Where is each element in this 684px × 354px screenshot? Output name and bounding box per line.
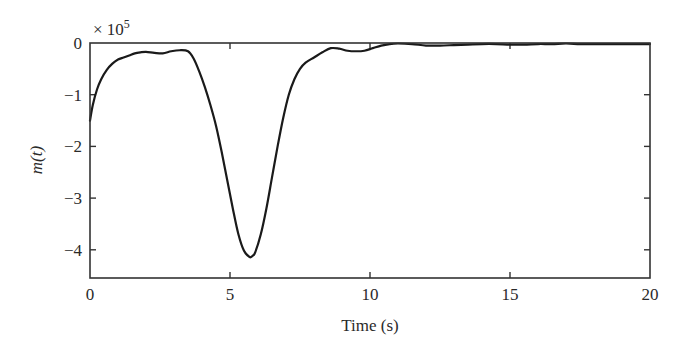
x-tick-label: 5 xyxy=(226,285,235,304)
y-multiplier-label: × 105 xyxy=(93,17,130,39)
x-tick-label: 20 xyxy=(642,285,659,304)
y-tick-label: −1 xyxy=(64,86,82,105)
y-tick-label: −2 xyxy=(64,137,82,156)
axis-ticks xyxy=(90,43,650,278)
x-axis-label: Time (s) xyxy=(341,316,398,335)
y-tick-label: −4 xyxy=(64,241,83,260)
x-tick-label: 0 xyxy=(86,285,95,304)
y-tick-label: −3 xyxy=(64,189,82,208)
x-tick-label: 10 xyxy=(362,285,379,304)
data-line-m-t xyxy=(90,44,650,258)
tick-labels: 051015200−1−2−3−4 xyxy=(64,34,659,304)
x-tick-label: 15 xyxy=(502,285,519,304)
plot-frame xyxy=(90,43,650,278)
line-chart: 051015200−1−2−3−4 × 105 Time (s) m(t) xyxy=(0,0,684,354)
y-tick-label: 0 xyxy=(74,34,83,53)
y-axis-label: m(t) xyxy=(27,146,46,175)
